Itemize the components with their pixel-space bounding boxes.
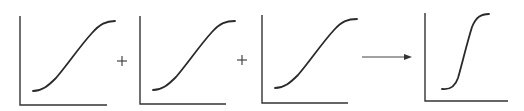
panel-1-gradual-sigmoid bbox=[20, 16, 115, 105]
panel-3-gradual-sigmoid bbox=[262, 15, 357, 103]
plus-operator-1 bbox=[117, 56, 127, 66]
arrow-operator bbox=[362, 54, 412, 60]
sigmoid-sum-diagram bbox=[0, 0, 524, 111]
panel-4-axes bbox=[425, 13, 508, 101]
panel-4-steep-sigmoid bbox=[425, 13, 508, 101]
arrow-head-icon bbox=[404, 54, 412, 60]
panel-4-curve bbox=[442, 14, 489, 89]
plus-operator-2 bbox=[237, 55, 247, 65]
panel-1-curve bbox=[33, 21, 115, 91]
panel-2-curve bbox=[153, 21, 235, 90]
panel-2-gradual-sigmoid bbox=[140, 16, 235, 104]
panel-3-curve bbox=[275, 19, 357, 88]
